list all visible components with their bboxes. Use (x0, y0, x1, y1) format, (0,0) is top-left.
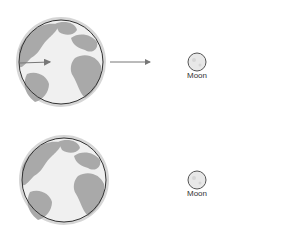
earth-top (16, 17, 106, 107)
moon-top (188, 53, 206, 71)
earth-bottom (19, 135, 109, 225)
moon-label-top: Moon (177, 71, 217, 80)
moon-bottom (188, 171, 206, 189)
moon-label-bottom: Moon (177, 189, 217, 198)
diagram-canvas (0, 0, 295, 225)
